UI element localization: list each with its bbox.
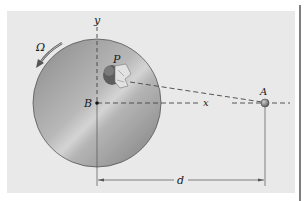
x-axis-label: x — [203, 97, 209, 108]
omega-label: Ω — [35, 41, 45, 54]
point-p-label: P — [112, 53, 121, 66]
point-b-marker — [95, 101, 99, 105]
point-b-label: B — [83, 97, 92, 110]
distance-d-label: d — [177, 174, 184, 187]
y-axis-label: y — [93, 14, 101, 27]
rotating-disc-diagram: Ω y x P B A d — [0, 0, 304, 201]
point-a-sphere — [261, 99, 269, 107]
point-a-label: A — [259, 86, 267, 97]
